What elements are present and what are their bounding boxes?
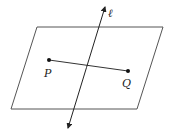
line-l-lower	[68, 68, 87, 129]
label-q: Q	[122, 77, 131, 90]
point-p	[47, 58, 51, 62]
label-l: ℓ	[108, 7, 113, 20]
diagram-canvas: ℓ P Q	[0, 0, 169, 137]
diagram-svg: ℓ P Q	[0, 0, 169, 137]
plane-parallelogram	[11, 27, 163, 109]
point-q	[126, 69, 130, 73]
line-l	[87, 7, 106, 68]
label-p: P	[43, 67, 52, 80]
